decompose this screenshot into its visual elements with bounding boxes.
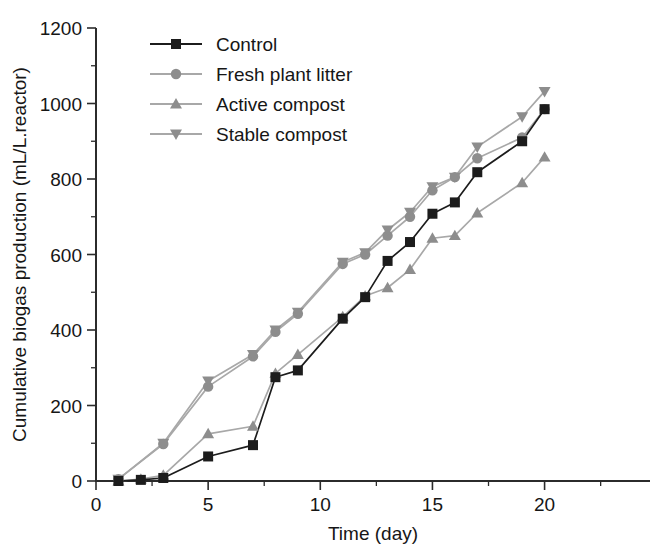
data-point-control-0 — [113, 476, 123, 486]
axis-frame — [96, 28, 650, 481]
series-line-control — [118, 109, 544, 481]
data-point-active-compost-13 — [471, 207, 483, 217]
x-tick-label-10: 10 — [310, 494, 331, 515]
legend-label-stable-compost: Stable compost — [216, 124, 348, 145]
legend-marker-square-icon — [171, 39, 181, 49]
data-point-control-4 — [248, 440, 258, 450]
data-point-fresh-plant-litter-12 — [472, 153, 482, 163]
legend-label-fresh-plant-litter: Fresh plant litter — [216, 64, 353, 85]
legend-item-control[interactable]: Control — [150, 34, 277, 55]
data-point-active-compost-15 — [539, 151, 551, 161]
data-point-control-14 — [517, 136, 527, 146]
data-point-control-12 — [450, 197, 460, 207]
y-tick-label-400: 400 — [50, 320, 82, 341]
data-point-control-7 — [338, 314, 348, 324]
data-point-stable-compost-13 — [516, 112, 528, 122]
legend-label-control: Control — [216, 34, 277, 55]
biogas-line-chart: 02004006008001000120005101520Time (day)C… — [0, 0, 668, 552]
data-point-control-3 — [203, 451, 213, 461]
legend-marker-circle-icon — [171, 69, 181, 79]
x-tick-label-5: 5 — [203, 494, 214, 515]
y-tick-label-1000: 1000 — [40, 94, 82, 115]
y-tick-label-600: 600 — [50, 245, 82, 266]
legend-item-stable-compost[interactable]: Stable compost — [150, 124, 348, 145]
data-point-control-8 — [360, 292, 370, 302]
x-tick-label-20: 20 — [534, 494, 555, 515]
data-point-active-compost-4 — [247, 420, 259, 430]
data-point-control-13 — [472, 167, 482, 177]
y-tick-label-0: 0 — [71, 471, 82, 492]
series-line-fresh-plant-litter — [118, 109, 544, 479]
series-line-active-compost — [118, 157, 544, 481]
y-tick-label-200: 200 — [50, 396, 82, 417]
data-point-control-9 — [383, 256, 393, 266]
data-point-control-15 — [540, 104, 550, 114]
x-axis-title: Time (day) — [328, 523, 418, 544]
y-axis-title: Cumulative biogas production (mL/L.react… — [9, 67, 30, 442]
data-point-control-10 — [405, 237, 415, 247]
data-point-control-1 — [136, 475, 146, 485]
data-point-control-2 — [158, 473, 168, 483]
legend-label-active-compost: Active compost — [216, 94, 346, 115]
y-tick-label-800: 800 — [50, 169, 82, 190]
chart-container: 02004006008001000120005101520Time (day)C… — [0, 0, 668, 552]
x-tick-label-15: 15 — [422, 494, 443, 515]
data-point-control-6 — [293, 365, 303, 375]
legend-item-fresh-plant-litter[interactable]: Fresh plant litter — [150, 64, 353, 85]
legend-item-active-compost[interactable]: Active compost — [150, 94, 346, 115]
data-point-control-11 — [427, 209, 437, 219]
x-tick-label-0: 0 — [91, 494, 102, 515]
data-point-control-5 — [270, 372, 280, 382]
y-tick-label-1200: 1200 — [40, 18, 82, 39]
